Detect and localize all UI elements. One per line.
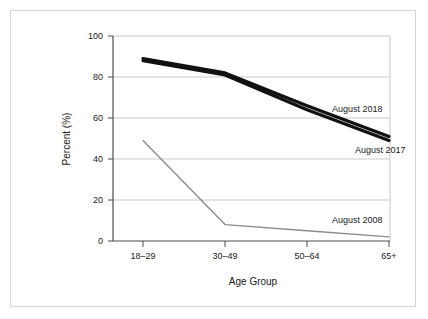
series-label-august-2017: August 2017 <box>355 145 406 155</box>
x-tick-label-65plus: 65+ <box>381 251 396 261</box>
series-line-august-2017 <box>143 61 389 141</box>
y-tick-label-100: 100 <box>88 31 103 41</box>
data-series-group <box>143 59 389 237</box>
y-tick-label-40: 40 <box>93 154 103 164</box>
y-axis-title: Percent (%) <box>61 113 72 166</box>
y-tick-label-80: 80 <box>93 72 103 82</box>
line-chart: 100 80 60 40 20 0 18–29 30–49 50–64 65+ … <box>0 0 428 319</box>
x-tick-label-30-49: 30–49 <box>212 251 237 261</box>
y-tick-label-0: 0 <box>98 236 103 246</box>
series-label-august-2008: August 2008 <box>332 215 383 225</box>
x-axis-ticks <box>143 241 389 247</box>
x-tick-label-50-64: 50–64 <box>294 251 319 261</box>
x-tick-label-18-29: 18–29 <box>130 251 155 261</box>
series-label-august-2018: August 2018 <box>332 104 383 114</box>
chart-figure: 100 80 60 40 20 0 18–29 30–49 50–64 65+ … <box>0 0 428 319</box>
series-line-august-2018 <box>143 59 389 137</box>
y-tick-label-20: 20 <box>93 195 103 205</box>
y-axis-ticks <box>108 36 113 241</box>
x-axis-title: Age Group <box>229 276 278 287</box>
y-tick-label-60: 60 <box>93 113 103 123</box>
